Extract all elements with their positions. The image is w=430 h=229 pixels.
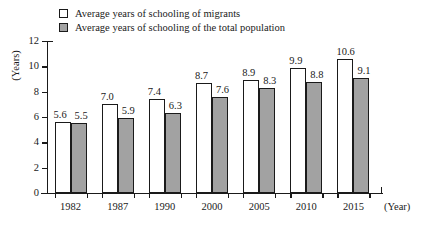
bar-white[interactable]: 5.6 xyxy=(55,122,71,193)
bar-chart: Average years of schooling of migrants A… xyxy=(0,0,430,229)
bar-value-label: 8.9 xyxy=(242,68,255,78)
x-axis-label: 2005 xyxy=(249,201,270,212)
bar-white[interactable]: 10.6 xyxy=(337,59,353,193)
bar-gray[interactable]: 5.9 xyxy=(118,118,134,193)
y-axis-tick xyxy=(42,193,47,194)
bar-value-label: 7.4 xyxy=(148,87,161,97)
bar-value-label: 8.3 xyxy=(263,76,276,86)
x-axis-tick xyxy=(369,193,370,198)
bar-group: 7.46.3 xyxy=(149,41,181,193)
x-axis-line xyxy=(41,193,383,194)
bar-group: 5.65.5 xyxy=(55,41,87,193)
x-axis-label: 2010 xyxy=(296,201,317,212)
x-axis-tick xyxy=(134,193,135,198)
x-axis-label: 1982 xyxy=(60,201,81,212)
chart-legend: Average years of schooling of migrants A… xyxy=(59,7,285,35)
bar-value-label: 9.1 xyxy=(357,66,370,76)
x-axis-unit-label: (Year) xyxy=(384,201,410,212)
bar-gray[interactable]: 7.6 xyxy=(212,97,228,193)
legend-label-migrants: Average years of schooling of migrants xyxy=(75,8,240,19)
bar-value-label: 8.7 xyxy=(195,71,208,81)
legend-label-total-population: Average years of schooling of the total … xyxy=(75,22,285,33)
bar-value-label: 6.3 xyxy=(169,101,182,111)
bar-white[interactable]: 7.0 xyxy=(102,104,118,193)
x-axis-tick xyxy=(243,193,244,198)
x-axis-end-tick xyxy=(381,187,382,193)
legend-item-migrants: Average years of schooling of migrants xyxy=(59,7,285,20)
y-axis-tick-label: 10 xyxy=(29,61,40,71)
y-axis-tick-label: 0 xyxy=(34,188,39,198)
x-axis-tick xyxy=(322,193,323,198)
x-axis-label: 1990 xyxy=(154,201,175,212)
x-axis-tick xyxy=(337,193,338,198)
legend-item-total-population: Average years of schooling of the total … xyxy=(59,21,285,34)
bar-group: 9.98.8 xyxy=(290,41,322,193)
bar-group: 8.77.6 xyxy=(196,41,228,193)
y-axis-tick-label: 4 xyxy=(34,137,39,147)
bar-value-label: 5.9 xyxy=(122,106,135,116)
plot-area: 024681012 5.65.57.05.97.46.38.77.68.98.3… xyxy=(47,41,377,193)
bar-group: 8.98.3 xyxy=(243,41,275,193)
y-axis-tick-label: 6 xyxy=(34,112,39,122)
x-axis-tick xyxy=(55,193,56,198)
bar-value-label: 9.9 xyxy=(289,56,302,66)
y-axis-tick-label: 2 xyxy=(34,163,39,173)
x-axis-tick xyxy=(102,193,103,198)
y-axis-tick-label: 8 xyxy=(34,87,39,97)
bar-white[interactable]: 8.9 xyxy=(243,80,259,193)
x-axis-tick xyxy=(149,193,150,198)
bar-value-label: 7.0 xyxy=(101,92,114,102)
x-axis-label: 1987 xyxy=(107,201,128,212)
x-axis-label: 2000 xyxy=(201,201,222,212)
bar-gray[interactable]: 8.3 xyxy=(259,88,275,193)
y-axis-tick-label: 12 xyxy=(29,36,40,46)
y-axis-title: (Years) xyxy=(10,43,21,89)
bar-white[interactable]: 7.4 xyxy=(149,99,165,193)
bar-gray[interactable]: 9.1 xyxy=(353,78,369,193)
x-axis-tick xyxy=(87,193,88,198)
x-axis-tick xyxy=(181,193,182,198)
bar-gray[interactable]: 8.8 xyxy=(306,82,322,193)
bar-value-label: 8.8 xyxy=(310,70,323,80)
legend-swatch-gray-icon xyxy=(59,23,68,32)
bar-groups: 5.65.57.05.97.46.38.77.68.98.39.98.810.6… xyxy=(47,41,377,193)
bar-group: 10.69.1 xyxy=(337,41,369,193)
x-axis-tick xyxy=(228,193,229,198)
bar-gray[interactable]: 6.3 xyxy=(165,113,181,193)
bar-white[interactable]: 9.9 xyxy=(290,68,306,193)
x-axis-tick xyxy=(196,193,197,198)
x-axis-tick xyxy=(275,193,276,198)
bar-gray[interactable]: 5.5 xyxy=(71,123,87,193)
bar-value-label: 7.6 xyxy=(216,85,229,95)
bar-value-label: 5.5 xyxy=(75,111,88,121)
bar-group: 7.05.9 xyxy=(102,41,134,193)
legend-swatch-white-icon xyxy=(59,9,68,18)
x-axis-tick xyxy=(290,193,291,198)
bar-white[interactable]: 8.7 xyxy=(196,83,212,193)
bar-value-label: 5.6 xyxy=(54,110,67,120)
x-axis-label: 2015 xyxy=(343,201,364,212)
bar-value-label: 10.6 xyxy=(336,47,354,57)
